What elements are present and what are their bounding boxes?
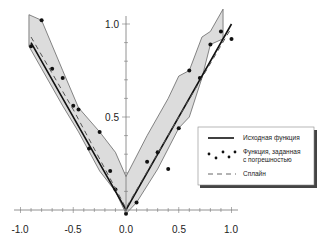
data-point: [40, 18, 44, 22]
data-point: [87, 147, 91, 151]
data-point: [108, 169, 112, 173]
chart: Исходная функция Функция, заданная с пог…: [0, 0, 328, 248]
y-tick-label: 0.5: [105, 112, 119, 123]
data-point: [98, 130, 102, 134]
data-point: [230, 37, 234, 41]
x-tick-label: -0.5: [64, 224, 82, 235]
data-point: [166, 167, 170, 171]
legend-label-spline: Сплайн: [243, 170, 266, 177]
legend: Исходная функция Функция, заданная с пог…: [198, 127, 317, 188]
data-point: [135, 201, 139, 205]
x-tick-label: 1.0: [224, 224, 238, 235]
y-tick-labels: 0.5 1.0: [105, 19, 119, 123]
y-tick-label: 1.0: [105, 19, 119, 30]
x-tick-label: 0.5: [172, 224, 186, 235]
legend-label-noisy-1: Функция, заданная: [243, 148, 301, 156]
legend-label-original: Исходная функция: [243, 134, 300, 142]
x-tick-label: -1.0: [11, 224, 29, 235]
data-point: [208, 42, 212, 46]
data-point: [219, 29, 223, 33]
data-point: [187, 69, 191, 73]
x-tick-label: 0.0: [119, 224, 133, 235]
data-point: [177, 126, 181, 130]
data-point: [77, 108, 81, 112]
data-point: [61, 76, 65, 80]
legend-label-noisy-2: с погрешностью: [243, 156, 292, 164]
x-tick-labels: -1.0 -0.5 0.0 0.5 1.0: [11, 224, 238, 235]
data-point: [145, 160, 149, 164]
data-point: [29, 44, 33, 48]
